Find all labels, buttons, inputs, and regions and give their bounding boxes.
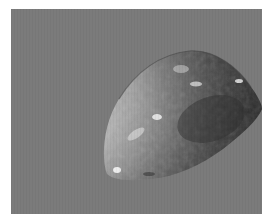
photo-frame [11,9,262,214]
celestial-body [11,9,262,214]
